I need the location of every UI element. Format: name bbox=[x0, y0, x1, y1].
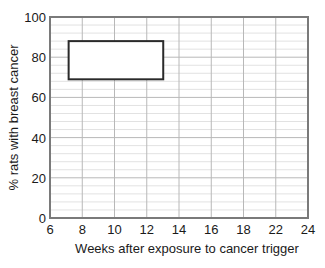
range-box bbox=[69, 41, 164, 79]
x-tick-label: 12 bbox=[140, 222, 154, 237]
x-tick-label: 18 bbox=[236, 222, 250, 237]
y-tick-label: 20 bbox=[32, 171, 46, 186]
chart: 6810121416182224 020406080100 Weeks afte… bbox=[0, 0, 325, 268]
y-tick-label: 60 bbox=[32, 90, 46, 105]
y-tick-label: 0 bbox=[39, 211, 46, 226]
y-tick-label: 80 bbox=[32, 50, 46, 65]
x-axis-title: Weeks after exposure to cancer trigger bbox=[75, 241, 299, 256]
x-tick-label: 24 bbox=[301, 222, 315, 237]
x-tick-label: 22 bbox=[269, 222, 283, 237]
x-tick-label: 14 bbox=[172, 222, 186, 237]
chart-marks bbox=[69, 41, 164, 79]
y-axis-title: % rats with breast cancer bbox=[6, 44, 21, 191]
x-tick-label: 6 bbox=[46, 222, 53, 237]
x-tick-label: 16 bbox=[204, 222, 218, 237]
x-tick-label: 8 bbox=[79, 222, 86, 237]
y-tick-label: 40 bbox=[32, 131, 46, 146]
x-tick-label: 10 bbox=[107, 222, 121, 237]
y-tick-label: 100 bbox=[24, 10, 46, 25]
x-tick-labels: 6810121416182224 bbox=[46, 222, 315, 237]
y-tick-labels: 020406080100 bbox=[24, 10, 46, 226]
